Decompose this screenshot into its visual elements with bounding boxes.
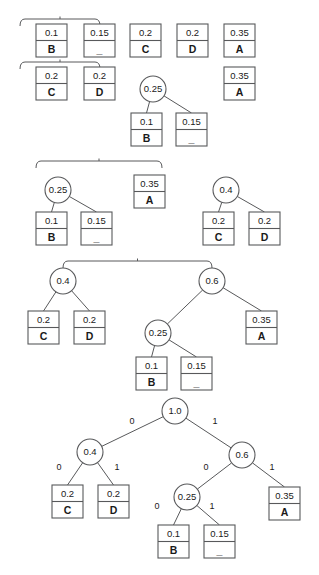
tree-edge (98, 463, 114, 485)
leaf-symbol: A (281, 506, 289, 518)
tree-edge (69, 196, 96, 212)
leaf-probability: 0.15 (87, 215, 106, 226)
leaf-node: 0.15_ (181, 357, 212, 390)
leaf-node: 0.15_ (84, 24, 115, 57)
step-5-group: 0.2C0.2D0.35A0.1B0.15_1.00.40.60.2501010… (52, 398, 300, 558)
internal-node-probability: 0.25 (49, 184, 68, 195)
edge-label: 0 (129, 416, 134, 426)
leaf-symbol: A (236, 86, 244, 98)
tree-edge (167, 290, 202, 324)
edge-label: 1 (212, 416, 217, 426)
internal-node-probability: 0.4 (83, 446, 96, 457)
leaf-node: 0.1B (136, 357, 167, 390)
leaf-symbol: B (170, 544, 178, 556)
leaf-node: 0.35A (224, 67, 255, 100)
leaf-symbol: D (96, 86, 104, 98)
internal-node-probability: 1.0 (168, 405, 181, 416)
huffman-tree-diagram: 0.1B0.15_0.2C0.2D0.35A0.2C0.2D0.35A0.1B0… (0, 0, 319, 575)
internal-node: 0.25 (140, 76, 166, 102)
leaf-node: 0.35A (224, 24, 255, 57)
leaf-symbol: B (143, 132, 151, 144)
internal-node-probability: 0.4 (219, 184, 232, 195)
tree-edge (174, 509, 182, 525)
leaf-symbol: C (64, 504, 72, 516)
leaf-node: 0.1B (131, 113, 162, 146)
leaf-probability: 0.2 (45, 70, 58, 81)
leaf-probability: 0.2 (139, 27, 152, 38)
leaf-node: 0.35A (246, 311, 277, 344)
leaf-symbol: _ (193, 376, 200, 388)
leaf-probability: 0.15 (210, 528, 229, 539)
leaf-probability: 0.2 (37, 314, 50, 325)
internal-node-probability: 0.6 (235, 449, 248, 460)
diagram-layers: 0.1B0.15_0.2C0.2D0.35A0.2C0.2D0.35A0.1B0… (20, 17, 300, 559)
tree-edge (223, 288, 261, 311)
internal-node: 0.25 (45, 177, 71, 203)
leaf-symbol: _ (188, 132, 195, 144)
internal-node: 0.4 (77, 439, 103, 465)
internal-node: 0.6 (229, 442, 255, 468)
brace-path (63, 261, 212, 268)
leaf-symbol: D (86, 330, 94, 342)
internal-node: 0.25 (145, 320, 171, 346)
tree-edge (52, 202, 55, 212)
leaf-probability: 0.15 (182, 116, 201, 127)
internal-node: 0.6 (199, 268, 225, 294)
leaf-node: 0.15_ (176, 113, 207, 146)
internal-node-probability: 0.25 (149, 327, 168, 338)
leaf-node: 0.2D (84, 67, 115, 100)
leaf-symbol: B (48, 231, 56, 243)
grouping-brace (36, 159, 162, 169)
step-3-group: 0.35A0.1B0.15_0.2C0.2D0.250.4 (36, 159, 280, 246)
internal-node: 0.4 (213, 177, 239, 203)
internal-node-probability: 0.6 (205, 275, 218, 286)
leaf-probability: 0.2 (212, 215, 225, 226)
leaf-symbol: C (215, 231, 223, 243)
leaf-symbol: D (261, 231, 269, 243)
leaf-symbol: _ (93, 231, 100, 243)
tree-edge (164, 96, 191, 113)
leaf-node: 0.2C (36, 67, 67, 100)
leaf-probability: 0.1 (140, 116, 153, 127)
leaf-node: 0.1B (36, 212, 67, 245)
leaf-probability: 0.2 (83, 314, 96, 325)
leaf-probability: 0.15 (187, 360, 206, 371)
leaf-node: 0.2C (52, 485, 83, 518)
leaf-probability: 0.1 (145, 360, 158, 371)
leaf-symbol: A (258, 330, 266, 342)
diagram-canvas: 0.1B0.15_0.2C0.2D0.35A0.2C0.2D0.35A0.1B0… (0, 0, 319, 575)
tree-edge (152, 346, 155, 357)
leaf-symbol: _ (96, 43, 103, 55)
tree-edge (72, 291, 90, 311)
leaf-node: 0.35A (269, 487, 300, 520)
leaf-symbol: B (148, 376, 156, 388)
tree-edge (68, 463, 83, 485)
leaf-node: 0.2C (28, 311, 59, 344)
leaf-probability: 0.2 (93, 70, 106, 81)
leaf-probability: 0.1 (45, 27, 58, 38)
leaf-node: 0.2D (74, 311, 105, 344)
leaf-probability: 0.2 (61, 488, 74, 499)
leaf-symbol: D (189, 43, 197, 55)
leaf-node: 0.15_ (81, 212, 112, 245)
leaf-symbol: A (236, 43, 244, 55)
leaf-probability: 0.35 (252, 314, 271, 325)
leaf-node: 0.35A (134, 175, 165, 208)
leaf-symbol: C (48, 86, 56, 98)
leaf-symbol: C (142, 43, 150, 55)
leaf-node: 0.2D (98, 485, 129, 518)
step-4-group: 0.2C0.2D0.35A0.1B0.15_0.40.60.25 (28, 259, 277, 391)
brace-path (36, 161, 162, 168)
leaf-node: 0.15_ (204, 525, 235, 558)
leaf-probability: 0.2 (186, 27, 199, 38)
edge-label: 0 (203, 462, 208, 472)
leaf-probability: 0.1 (45, 215, 58, 226)
tree-edge (219, 202, 222, 212)
leaf-symbol: _ (216, 544, 223, 556)
internal-node: 1.0 (162, 398, 188, 424)
leaf-probability: 0.35 (140, 178, 159, 189)
edge-label: 1 (269, 462, 274, 472)
leaf-probability: 0.15 (90, 27, 109, 38)
internal-node: 0.4 (50, 268, 76, 294)
leaf-probability: 0.35 (230, 70, 249, 81)
